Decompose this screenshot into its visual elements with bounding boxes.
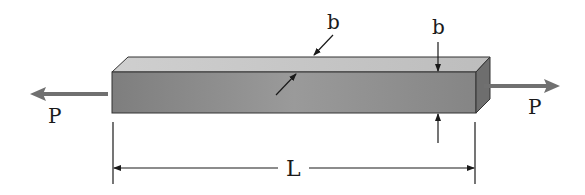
height-label: b (432, 15, 445, 39)
diagram-canvas: P P b b L (0, 0, 585, 195)
width-arrow-outer-icon (314, 35, 333, 55)
bar-front-face (112, 72, 476, 113)
bar-top-face (112, 57, 490, 72)
right-load-label: P (528, 95, 541, 119)
length-label: L (286, 156, 301, 181)
bar (112, 57, 490, 113)
right-load-arrow-icon (484, 79, 560, 93)
left-load-label: P (48, 104, 61, 128)
left-load-arrow-icon (30, 87, 108, 101)
width-label: b (327, 10, 340, 34)
